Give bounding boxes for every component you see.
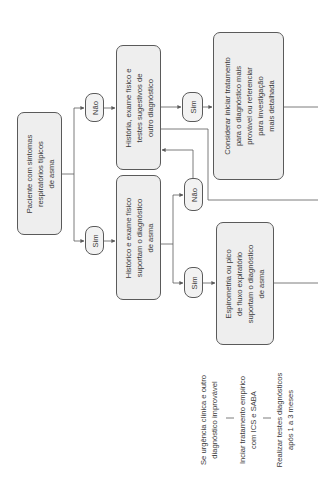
urgent-step-3: Realizar testes diagnósticos após 1 a 3 … — [273, 360, 297, 480]
urgent-step-2-line-1: Inciar tratamento empírico — [237, 376, 248, 464]
urgent-step-3-line-1: Realizar testes diagnósticos — [274, 373, 285, 468]
urgent-step-2: Inciar tratamento empírico com ICS e SAB… — [236, 360, 260, 480]
urgent-step-3-line-2: após 1 a 3 meses — [285, 373, 296, 468]
urgent-step-2-line-2: com ICS e SABA — [248, 376, 259, 464]
